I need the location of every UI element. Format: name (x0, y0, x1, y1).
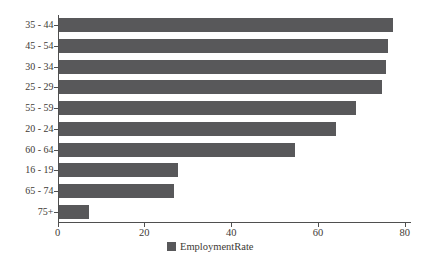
y-tick (54, 46, 58, 47)
x-tick-label: 0 (46, 227, 70, 239)
bar (59, 205, 89, 219)
y-tick (54, 67, 58, 68)
bar (59, 184, 174, 198)
legend: EmploymentRate (167, 241, 254, 252)
y-tick (54, 129, 58, 130)
category-label: 75+ (0, 205, 54, 219)
x-tick-label: 60 (306, 227, 330, 239)
category-label: 16 - 19 (0, 163, 54, 177)
y-tick (54, 87, 58, 88)
category-label: 60 - 64 (0, 143, 54, 157)
y-tick (54, 212, 58, 213)
legend-marker-icon (167, 242, 176, 251)
category-label: 65 - 74 (0, 184, 54, 198)
y-tick (54, 191, 58, 192)
bar (59, 122, 337, 136)
bar (59, 143, 296, 157)
category-label: 25 - 29 (0, 80, 54, 94)
category-label: 20 - 24 (0, 122, 54, 136)
y-tick (54, 25, 58, 26)
bar (59, 39, 389, 53)
x-tick-label: 20 (132, 227, 156, 239)
category-label: 35 - 44 (0, 18, 54, 32)
category-label: 55 - 59 (0, 101, 54, 115)
x-axis-line (58, 222, 411, 223)
bar (59, 18, 393, 32)
y-tick (54, 170, 58, 171)
bar (59, 80, 382, 94)
bar (59, 101, 356, 115)
legend-label: EmploymentRate (180, 241, 254, 252)
x-tick-label: 80 (393, 227, 417, 239)
x-tick-label: 40 (219, 227, 243, 239)
y-tick (54, 150, 58, 151)
bar (59, 60, 387, 74)
category-label: 45 - 54 (0, 39, 54, 53)
plot-area: 35 - 4445 - 5430 - 3425 - 2955 - 5920 - … (0, 0, 431, 271)
y-tick (54, 108, 58, 109)
bar-chart: 35 - 4445 - 5430 - 3425 - 2955 - 5920 - … (0, 0, 431, 271)
bar (59, 163, 178, 177)
category-label: 30 - 34 (0, 60, 54, 74)
